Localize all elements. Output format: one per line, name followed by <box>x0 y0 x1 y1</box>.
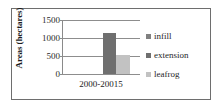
legend-label-leafrog: leafrog <box>154 70 179 79</box>
gridline-0 <box>62 74 140 75</box>
legend-label-infill: infill <box>154 32 172 41</box>
legend-swatch-icon-extension <box>146 53 151 58</box>
y-tick-label-1000: 1000 <box>28 34 60 43</box>
chart-legend: infillextensionleafrog <box>146 28 208 85</box>
chart-figure: Areas (hectares) 050010001500 2000-20015… <box>0 0 223 110</box>
y-axis-tick-labels: 050010001500 <box>28 16 60 74</box>
x-axis-category-label: 2000-20015 <box>55 79 147 89</box>
y-tick-label-0: 0 <box>28 70 60 79</box>
tickmark-0 <box>59 74 62 75</box>
bar-group <box>62 20 140 74</box>
y-axis-title: Areas (hectares) <box>14 3 28 73</box>
legend-swatch-icon-infill <box>146 34 151 39</box>
y-tick-label-500: 500 <box>28 52 60 61</box>
legend-item-leafrog[interactable]: leafrog <box>146 66 208 82</box>
legend-label-extension: extension <box>154 51 189 60</box>
y-tick-label-1500: 1500 <box>28 16 60 25</box>
bar-leafrog <box>116 55 130 74</box>
plot-area <box>62 20 140 74</box>
legend-item-extension[interactable]: extension <box>146 47 208 63</box>
legend-item-infill[interactable]: infill <box>146 28 208 44</box>
legend-swatch-icon-leafrog <box>146 72 151 77</box>
bar-extension <box>103 33 117 74</box>
